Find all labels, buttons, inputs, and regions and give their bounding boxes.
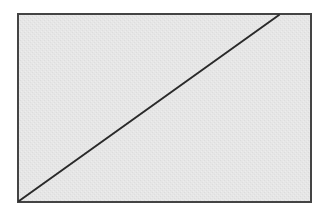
diagram-canvas [0,0,329,217]
rectangle-shape [18,14,311,202]
